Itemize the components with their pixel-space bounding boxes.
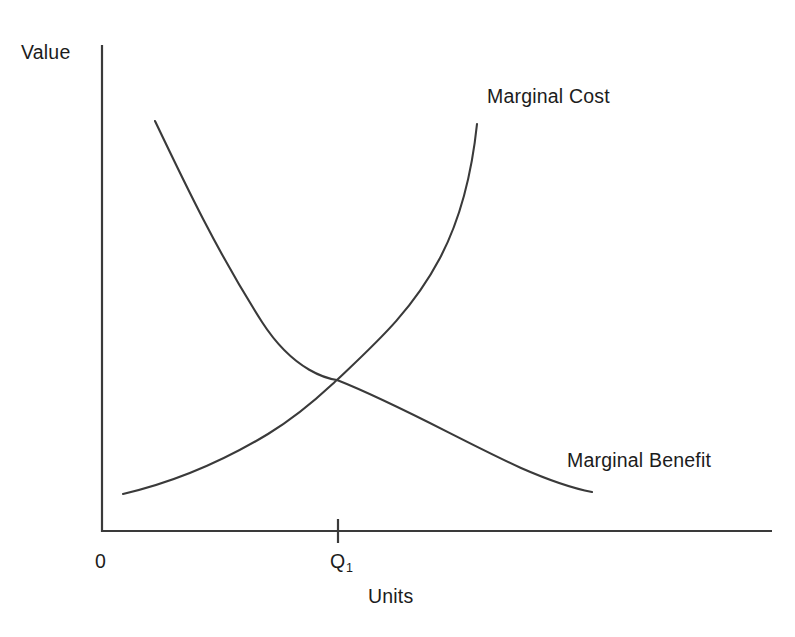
chart-canvas bbox=[0, 0, 795, 637]
marginal-benefit-curve bbox=[155, 121, 592, 492]
q1-base: Q bbox=[330, 550, 345, 572]
marginal-cost-curve bbox=[123, 124, 477, 494]
x-axis-tick-label-q1: Q1 bbox=[330, 550, 353, 573]
origin-label: 0 bbox=[95, 550, 106, 573]
q1-subscript: 1 bbox=[346, 561, 353, 575]
marginal-cost-label: Marginal Cost bbox=[487, 85, 610, 108]
y-axis-label: Value bbox=[21, 41, 70, 64]
x-axis-label: Units bbox=[368, 585, 413, 608]
chart-figure: Value Marginal Cost Marginal Benefit 0 Q… bbox=[0, 0, 795, 637]
marginal-benefit-label: Marginal Benefit bbox=[567, 449, 711, 472]
